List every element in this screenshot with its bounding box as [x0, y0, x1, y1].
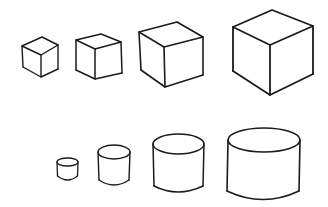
cylinder-4	[227, 128, 300, 200]
sketch-canvas: Hand-drawn sketch of four cubes increasi…	[0, 0, 328, 207]
cube-3	[139, 22, 203, 87]
cylinder-3	[153, 134, 204, 192]
cube-1	[22, 37, 58, 77]
cube-2	[76, 34, 122, 79]
shapes-drawing	[0, 0, 328, 207]
cube-4	[233, 10, 313, 95]
cylinder-1	[57, 158, 78, 180]
cylinder-2	[98, 145, 130, 185]
